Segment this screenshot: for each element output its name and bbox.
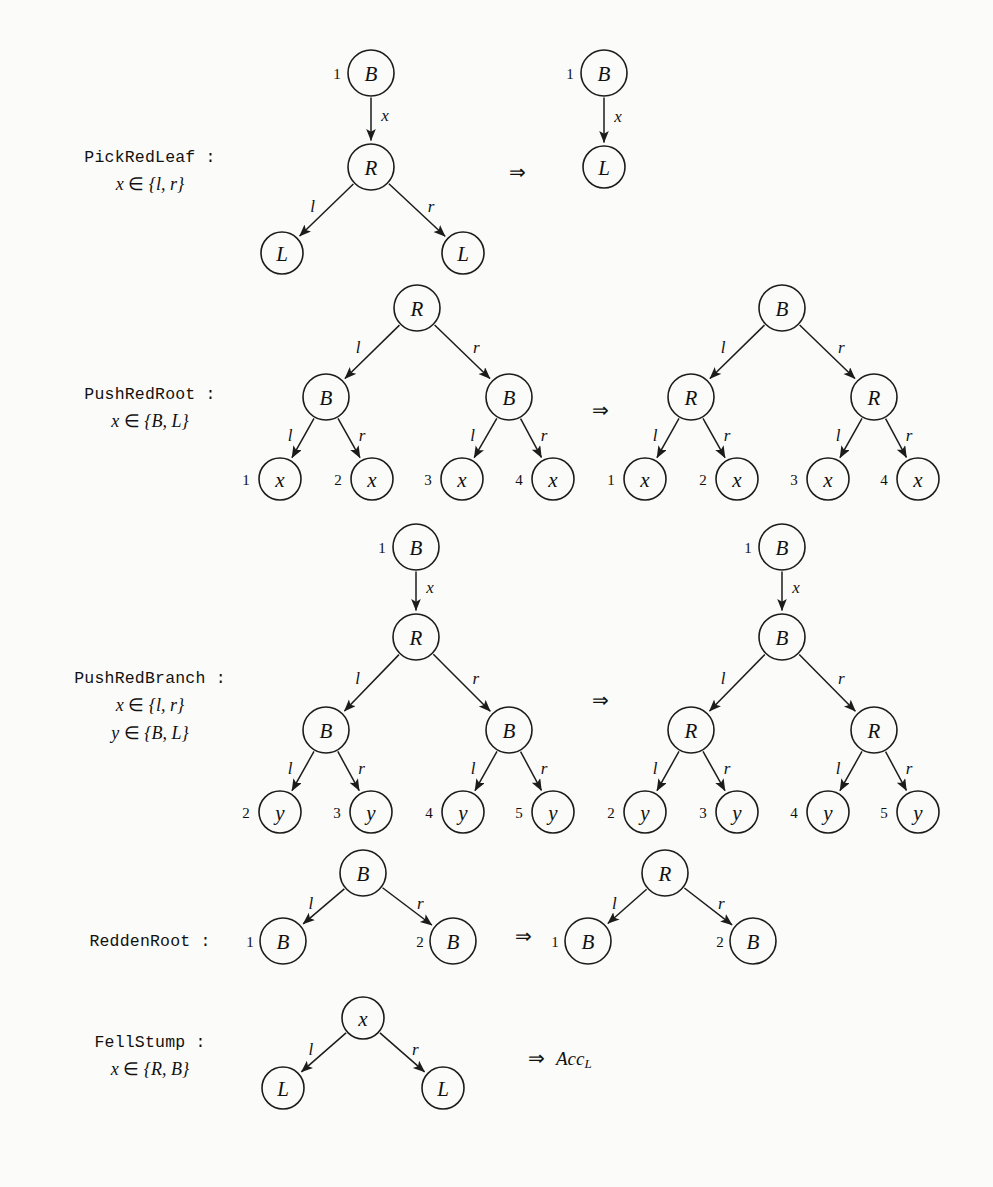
tree-edge: r [886, 419, 913, 458]
node-label: B [410, 536, 423, 560]
tree-edge: r [521, 752, 548, 791]
node-label: x [731, 468, 742, 492]
tree-node: R [394, 285, 440, 331]
tree-edge: l [653, 751, 679, 790]
node-label: x [456, 468, 467, 492]
node-label: y [911, 801, 923, 825]
tree-node: y2 [242, 791, 301, 833]
edge-line [433, 654, 490, 711]
edge-label-r: r [541, 759, 548, 778]
accept-term: AccL [554, 1048, 592, 1071]
rule-condition: x ∈ {l, r} [115, 695, 185, 715]
edge-line [703, 751, 725, 790]
edge-line [383, 888, 432, 925]
tree-edge: l [288, 418, 314, 457]
node-port-number: 2 [607, 805, 615, 821]
rule-name-label: FellStump : [94, 1033, 205, 1052]
implies-arrow-icon: ⇒ [509, 161, 526, 183]
tree-node: R [642, 850, 688, 896]
tree-node: B1 [744, 524, 805, 570]
node-port-number: 4 [425, 805, 433, 821]
tree-node: B [486, 707, 532, 753]
rule-push-red-root: PushRedRoot :x ∈ {B, L}⇒lrlrlrRBBx1x2x3x… [84, 285, 939, 500]
edge-line [345, 325, 400, 378]
rule-pick-red-leaf: PickRedLeaf :x ∈ {l, r}⇒xlrB1RLLxB1L [84, 50, 627, 274]
node-port-number: 3 [699, 805, 707, 821]
tree-edge: l [608, 889, 647, 923]
node-port-number: 4 [790, 805, 798, 821]
edge-label-r: r [906, 426, 913, 445]
tree-node: B1 [378, 524, 439, 570]
tree-node: L [422, 1067, 464, 1109]
edge-line [338, 418, 360, 457]
node-port-number: 2 [242, 805, 250, 821]
edge-line [338, 751, 359, 790]
node-label: y [273, 801, 285, 825]
rule-name-label: PickRedLeaf : [84, 148, 215, 167]
edge-label-r: r [718, 894, 725, 913]
edge-line [886, 419, 907, 458]
node-label: R [364, 156, 378, 180]
implies-arrow-icon: ⇒ [528, 1047, 545, 1069]
edge-label-l: l [288, 426, 293, 445]
tree-edge: r [703, 751, 731, 790]
rule-fell-stump: FellStump :x ∈ {R, B}⇒lrxLLAccL [94, 997, 591, 1109]
node-port-number: 2 [416, 934, 424, 950]
tree-node: B1 [551, 918, 611, 964]
node-port-number: 4 [515, 472, 523, 488]
tree-edge: r [886, 752, 913, 791]
edge-label-l: l [721, 669, 726, 688]
edge-line [657, 751, 679, 790]
node-port-number: 1 [607, 472, 615, 488]
tree-node: y5 [515, 791, 574, 833]
edge-label-r: r [412, 1040, 419, 1059]
edge-label-l: l [470, 426, 475, 445]
tree-edge: l [710, 325, 765, 378]
tree-node: x3 [424, 458, 483, 500]
edge-line [474, 418, 497, 457]
node-label: R [658, 862, 672, 886]
node-label: y [364, 801, 376, 825]
tree-node: L [583, 146, 625, 188]
edge-label-x: x [791, 578, 800, 597]
accept-base: Acc [554, 1048, 585, 1069]
node-label: R [684, 386, 698, 410]
node-label: y [821, 801, 833, 825]
node-label: B [357, 862, 370, 886]
node-label: B [320, 719, 333, 743]
tree-edge: r [338, 418, 366, 457]
edge-line [710, 325, 765, 378]
tree-edge: x [782, 572, 800, 611]
edge-label-l: l [721, 338, 726, 357]
rule-condition: x ∈ {B, L} [110, 411, 189, 431]
edge-line [344, 655, 399, 711]
rule-name-label: PushRedRoot : [84, 385, 215, 404]
node-label: B [365, 62, 378, 86]
edge-label-l: l [308, 1040, 313, 1059]
node-label: B [776, 536, 789, 560]
node-label: R [867, 386, 881, 410]
edge-line [703, 418, 725, 457]
tree-node: B1 [246, 918, 306, 964]
node-port-number: 5 [880, 805, 888, 821]
edge-line [799, 654, 855, 711]
edge-label-l: l [308, 894, 313, 913]
tree-node: x1 [607, 458, 666, 500]
tree-node: B2 [716, 918, 776, 964]
tree-node: R [393, 614, 439, 660]
edge-label-r: r [838, 669, 845, 688]
edge-label-r: r [838, 338, 845, 357]
rule-name-label: ReddenRoot : [89, 932, 210, 951]
implies-arrow-icon: ⇒ [592, 689, 609, 711]
node-label: x [912, 468, 923, 492]
node-label: L [436, 1077, 449, 1101]
rule-condition: x ∈ {R, B} [110, 1059, 190, 1079]
node-label: x [639, 468, 650, 492]
tree-edge: l [471, 751, 497, 790]
edge-label-r: r [428, 197, 435, 216]
node-port-number: 3 [424, 472, 432, 488]
edge-line [521, 419, 542, 458]
tree-edge: l [653, 418, 679, 457]
edge-line [435, 325, 490, 379]
node-label: L [276, 1077, 289, 1101]
